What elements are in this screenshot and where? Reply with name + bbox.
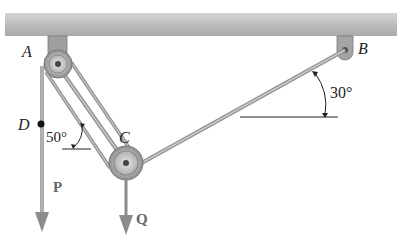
label-a: A	[21, 43, 32, 60]
diagram-canvas: A B C D 30° 50° P Q	[0, 0, 404, 246]
force-q-arrow	[119, 215, 133, 235]
label-angle-b: 30°	[330, 84, 352, 101]
label-force-q: Q	[136, 211, 148, 227]
label-b: B	[358, 40, 368, 57]
label-d: D	[17, 116, 30, 133]
label-angle-c: 50°	[46, 129, 67, 145]
label-force-p: P	[53, 179, 62, 195]
ceiling-beam	[5, 13, 397, 36]
label-c: C	[119, 129, 130, 146]
force-p-arrow	[35, 212, 49, 232]
angle-arc-c	[74, 125, 82, 147]
angle-arc-b	[315, 73, 326, 115]
point-d	[38, 121, 45, 128]
